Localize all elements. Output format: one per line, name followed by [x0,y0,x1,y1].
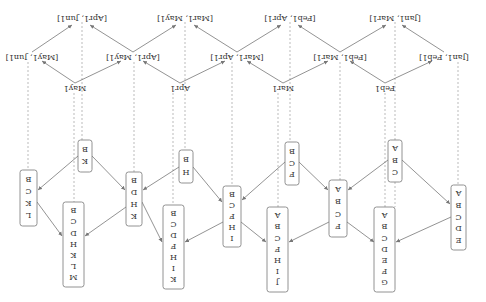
interval-mar1-apr1: [Mar1, Apr1] [210,53,263,62]
set-element: A [381,211,388,220]
set-element: G [381,278,387,287]
set-element: C [70,217,76,226]
set-element: K [130,212,137,221]
interval-jan1-feb1: [Jan1, Feb1] [419,53,469,62]
set-element: C [170,220,176,229]
set-element: H [70,240,77,249]
set-box-bk: BK [78,140,92,172]
set-element: D [131,188,137,197]
set-element: B [455,201,461,210]
top-interval-labels: [Jan1, Mar1] [Feb1, Apr1] [Mar1, May1] [… [57,14,421,23]
set-element: C [289,159,295,168]
set-element: M [69,273,77,282]
set-element: J [276,278,280,287]
set-element: F [170,242,176,251]
set-element: F [229,212,235,221]
set-element: B [170,209,176,218]
set-element: B [381,222,387,231]
set-element: C [274,234,280,243]
set-element: B [274,222,280,231]
set-element: B [25,175,31,184]
set-element: D [381,245,387,254]
set-box-bh: BH [179,150,193,183]
set-element: F [289,170,295,179]
set-element: E [455,236,461,245]
interval-jan1-mar1: [Jan1, Mar1] [369,14,420,23]
point-feb1: Feb1 [375,84,395,93]
set-element: A [274,211,281,220]
set-element: A [455,189,462,198]
set-element: B [131,176,137,185]
set-element: D [170,231,176,240]
set-box-bcfhi: BCFHI [223,186,241,247]
set-element: E [381,256,387,265]
set-box-bdhk: BDHK [126,172,142,226]
set-box-bcdhklm: BCDHKLM [63,202,84,287]
set-element: I [172,264,175,273]
set-element: C [335,210,341,219]
set-element: K [24,199,31,208]
point-mar1: Mar1 [272,84,294,93]
set-element: A [335,185,342,194]
interval-feb1-mar1: [Feb1, Mar1] [313,53,366,62]
set-element: F [274,245,280,254]
set-element: K [69,251,76,260]
set-element: I [276,267,279,276]
set-element: B [289,147,295,156]
set-element: H [182,168,189,177]
set-box-abcde: ABCDE [451,185,466,250]
point-apr1: Apr1 [170,84,191,93]
set-element: B [183,155,189,164]
set-element: F [381,267,387,276]
set-element: H [170,253,177,262]
set-element: L [70,262,76,271]
set-element: D [455,224,461,233]
set-element: B [82,145,88,154]
set-element: C [25,187,31,196]
interval-feb1-apr1: [Feb1, Apr1] [264,14,315,23]
set-box-abcf: ABCF [329,180,347,237]
set-element: K [81,157,88,166]
interval-mar1-may1: [Mar1, May1] [157,14,213,23]
set-box-bcf: BCF [285,142,299,185]
interval-apr1-may1: [Apr1, May1] [106,53,160,62]
set-box-bckl: BCKL [20,170,37,226]
interval-apr1-jun1: [Apr1, Jun1] [57,14,107,23]
set-element: K [169,275,176,284]
set-element: B [229,190,235,199]
set-element: L [25,211,31,220]
set-box-abc: ABC [388,140,402,182]
set-element: C [229,201,235,210]
set-element: F [335,222,341,231]
set-boxes: ABCABCDEABCFABCDEFGBCFABCFHIJBCFHIBHBCDF… [20,140,466,292]
set-element: I [230,234,233,243]
set-box-abcfhij: ABCFHIJ [267,207,288,292]
set-element: A [392,144,399,153]
set-element: H [228,223,235,232]
set-element: B [70,206,76,215]
lattice-diagram: [Jan1, Mar1] [Feb1, Apr1] [Mar1, May1] [… [0,0,486,302]
set-element: C [392,168,398,177]
set-element: B [335,197,341,206]
point-may1: May1 [64,84,87,93]
set-element: C [381,234,387,243]
point-labels: Feb1 Mar1 Apr1 May1 [64,84,395,93]
set-box-bcdfhik: BCDFHIK [163,205,184,289]
set-element: B [392,156,398,165]
set-element: H [274,256,281,265]
set-element: C [455,213,461,222]
set-box-abcdefg: ABCDEFG [374,207,395,292]
set-element: D [70,229,76,238]
set-element: H [130,200,137,209]
diagram-canvas: [Jan1, Mar1] [Feb1, Apr1] [Mar1, May1] [… [0,0,486,302]
interval-may1-jun1: [May1, Jun1] [6,53,59,62]
mid-interval-labels: [Jan1, Feb1] [Feb1, Mar1] [Mar1, Apr1] [… [6,53,469,62]
